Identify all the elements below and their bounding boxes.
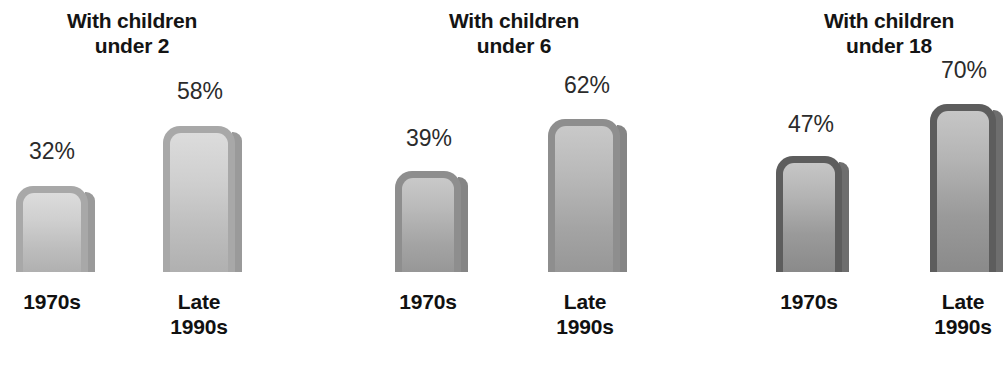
era-label-g2-1970s: 1970s [378, 289, 478, 314]
group-heading-under-18: With children under 18 [773, 8, 1005, 58]
bar-g2-1970s [395, 171, 461, 272]
value-label-g3-1970s: 47% [772, 112, 850, 137]
group-heading-under-2: With children under 2 [16, 8, 248, 58]
bar-g2-late1990s [548, 119, 620, 272]
bar-front-face [170, 133, 228, 272]
value-label-g2-1970s: 39% [390, 126, 468, 151]
bar-g1-late1990s [163, 126, 235, 272]
value-label-g2-late1990s: 62% [548, 73, 626, 98]
bar-chart: With children under 2 32% 1970s 58% Late… [0, 0, 1007, 365]
bar-front-face [555, 126, 613, 272]
bar-front-face [23, 193, 81, 272]
bar-g3-1970s [776, 156, 842, 272]
era-label-g1-late1990s: Late 1990s [149, 289, 249, 339]
value-label-g3-late1990s: 70% [925, 58, 1003, 83]
bar-front-face [402, 178, 454, 272]
bar-front-face [783, 163, 835, 272]
era-label-g1-1970s: 1970s [2, 289, 102, 314]
bar-g1-1970s [16, 186, 88, 272]
value-label-g1-late1990s: 58% [161, 79, 239, 104]
era-label-g2-late1990s: Late 1990s [535, 289, 635, 339]
group-heading-under-6: With children under 6 [398, 8, 630, 58]
bar-front-face [937, 111, 989, 272]
bar-g3-late1990s [930, 104, 996, 272]
era-label-g3-1970s: 1970s [759, 289, 859, 314]
era-label-g3-late1990s: Late 1990s [913, 289, 1007, 339]
value-label-g1-1970s: 32% [13, 139, 91, 164]
